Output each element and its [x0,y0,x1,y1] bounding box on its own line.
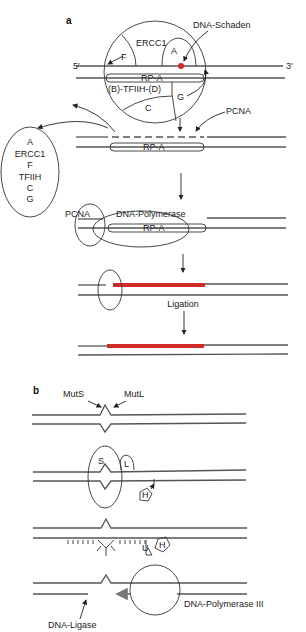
released-c: C [27,183,34,193]
dna-damage-dot [178,63,184,69]
a-label: A [171,46,177,56]
strand-bottom-kinked [32,423,246,432]
released-a: A [27,137,33,147]
rpa-label-2: RP-A [143,142,165,152]
strand-top-kinked [32,405,246,415]
tfiih-label: (B)-TFIIH-(D) [108,84,161,94]
pcna-ring-4 [98,270,122,310]
ligase-label: DNA-Ligase [48,620,97,630]
synthesis-step: Ligation [78,270,288,310]
muts-label: MutS [63,389,84,399]
s-label: S [98,456,104,466]
rpa-label: RP-A [141,73,163,83]
released-ercc1: ERCC1 [15,149,46,159]
ner-complex: 5′ 3′ ERCC1 F A G C RP-A (B)-TFIIH-(D) D… [73,20,293,123]
muts-binding-step: S L H [33,446,246,508]
mutl-label: MutL [124,389,144,399]
h-label: H [142,490,149,500]
strand-bottom [78,354,288,355]
released-factors: A ERCC1 F TFIIH C G [1,127,59,217]
mmr-excision-step: U H [33,519,247,556]
muts-arrow [88,401,101,407]
ercc1-label: ERCC1 [136,38,167,48]
strand-top-kinked [33,519,247,528]
excision-step: RP-A PCNA [38,105,286,152]
ligase-arrow [80,600,86,619]
panel-b-label: b [33,385,39,396]
l-label: L [124,459,129,469]
g-divider [172,82,176,121]
rpa-label-3: RP-A [143,223,165,233]
released-f: F [27,160,33,170]
protein-a-shape [162,38,196,66]
ligated-step [78,345,288,355]
panel-a-label: a [66,15,72,26]
three-prime-label: 3′ [286,61,293,71]
strand-bottom-kinked [33,480,246,489]
five-prime-label: 5′ [73,61,80,71]
released-g: G [26,194,33,204]
polymerase-iii-label: DNA-Polymerase III [184,599,264,609]
mutl-arrow [114,401,126,407]
mismatch-step: MutS MutL [32,389,246,432]
dna-repair-diagram: a 5′ 3′ ERCC1 F A G C RP-A (B)-TFIIH-(D)… [0,0,306,632]
kink-branch [97,540,115,556]
pcna-label-3: PCNA [65,209,90,219]
h-label-3: H [159,540,166,550]
c-label: C [145,103,152,113]
polymerase-iii-circle [130,565,180,615]
muts-ellipse [88,446,122,508]
resynthesis-step: DNA-Polymerase III DNA-Ligase [33,565,264,630]
released-tfiih: TFIIH [19,172,42,182]
g-label: G [177,92,184,102]
strand-top-kinked [33,575,247,583]
u-label: U [142,543,149,553]
strand-top-kinked [33,464,246,472]
polymerase-step: RP-A PCNA DNA-Polymerase [65,204,286,247]
complex-circle [104,21,206,123]
ligation-label: Ligation [167,299,199,309]
polymerase-label: DNA-Polymerase [116,209,186,219]
pcna-arrow [196,112,225,131]
release-arrow-2 [38,122,108,129]
release-arrow-1 [73,105,115,132]
muth-arrow [151,484,154,489]
pcna-label-2: PCNA [226,106,251,116]
damage-label: DNA-Schaden [193,20,251,30]
exonuclease-ticks [68,540,145,544]
damage-arrow [184,31,208,61]
